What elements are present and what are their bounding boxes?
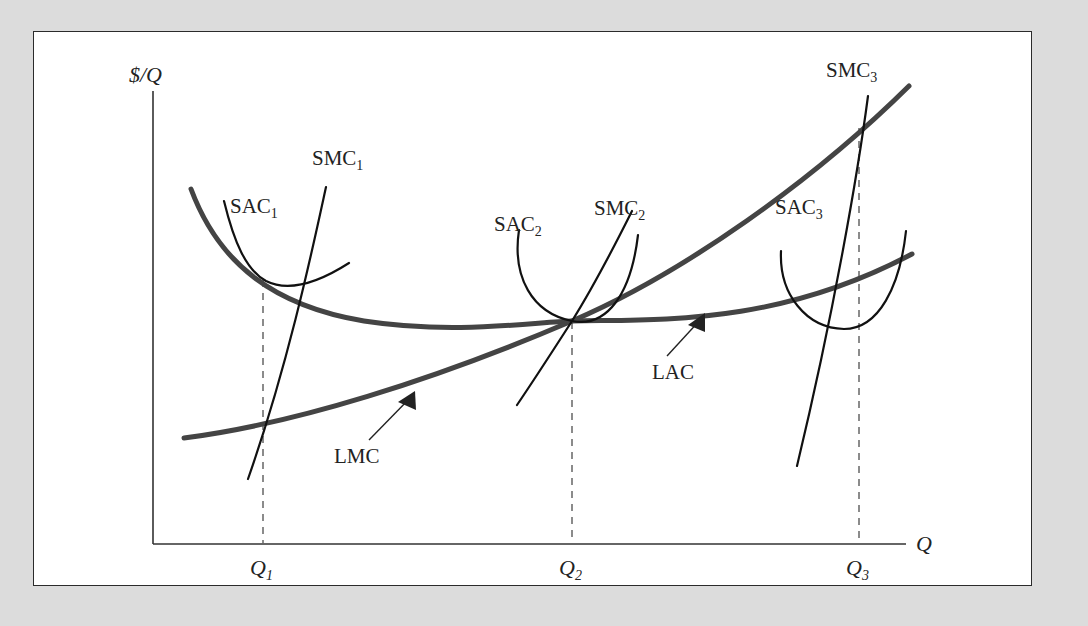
tick-label-q1: Q1 — [250, 555, 273, 583]
label-smc-3: SMC3 — [826, 58, 877, 85]
lac-callout: LAC — [652, 313, 705, 384]
curve-sac-2 — [518, 230, 638, 322]
label-smc-1: SMC1 — [312, 146, 363, 173]
curve-smc-2 — [517, 211, 632, 405]
x-axis-label: Q — [916, 531, 932, 556]
label-sac-1: SAC1 — [230, 194, 278, 221]
guide-lines-group — [263, 128, 859, 544]
label-sac-3: SAC3 — [775, 195, 823, 222]
figure-panel: $/Q Q SAC1 — [33, 31, 1032, 586]
label-lac: LAC — [652, 360, 694, 384]
label-smc-2: SMC2 — [594, 196, 645, 223]
tick-label-q2: Q2 — [559, 555, 582, 583]
label-lmc: LMC — [334, 444, 380, 468]
tick-label-q3: Q3 — [846, 555, 869, 583]
curve-smc-1 — [248, 187, 326, 479]
cost-curves-chart: $/Q Q SAC1 — [34, 32, 1033, 587]
curve-lmc — [184, 86, 909, 438]
y-axis-label: $/Q — [129, 62, 162, 87]
axes-group — [153, 91, 906, 544]
label-sac-2: SAC2 — [494, 212, 542, 239]
figure-screen: $/Q Q SAC1 — [0, 0, 1088, 626]
